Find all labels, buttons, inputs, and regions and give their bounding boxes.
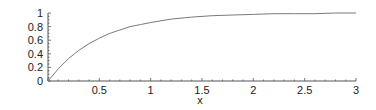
x-tick-label: 2: [250, 84, 256, 96]
x-tick-label: 1: [148, 84, 154, 96]
ticks: [48, 13, 356, 81]
data-curve: [48, 13, 356, 81]
y-tick-label: 0: [37, 75, 43, 87]
axes: [48, 13, 356, 81]
x-tick-label: 0.5: [92, 84, 107, 96]
x-tick-label: 2.5: [297, 84, 312, 96]
y-tick-label: 0.2: [28, 61, 43, 73]
y-tick-label: 1: [37, 7, 43, 19]
line-chart: 0.511.522.5300.20.40.60.81 x: [0, 0, 376, 110]
y-tick-label: 0.8: [28, 21, 43, 33]
y-tick-label: 0.6: [28, 34, 43, 46]
x-axis-label: x: [197, 94, 203, 106]
x-tick-label: 3: [353, 84, 359, 96]
y-tick-label: 0.4: [28, 48, 43, 60]
